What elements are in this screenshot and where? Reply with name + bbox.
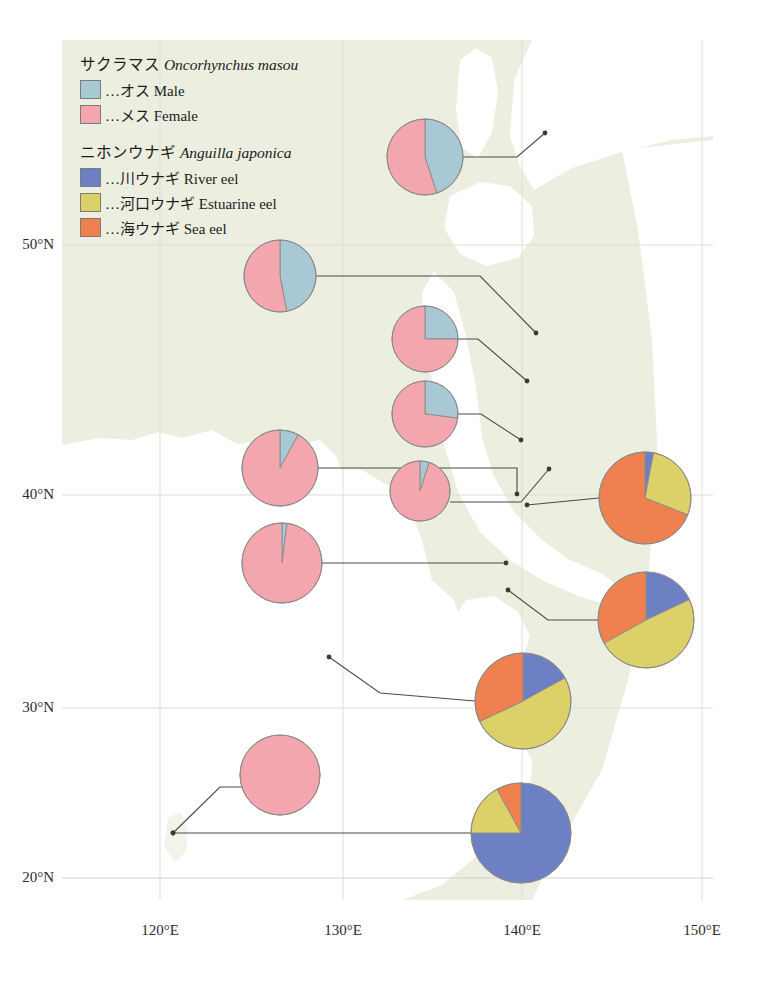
pie-masu-4[interactable] bbox=[392, 381, 458, 447]
pie-masu-3[interactable] bbox=[392, 306, 458, 372]
lon-tick-140: 140°E bbox=[482, 922, 562, 939]
swatch-river-eel-icon bbox=[80, 168, 101, 187]
pie-masu-8[interactable] bbox=[240, 735, 320, 815]
pie-masu-2[interactable] bbox=[244, 240, 316, 312]
lat-tick-40: 40°N bbox=[0, 486, 54, 503]
legend-label-sea-eel: …海ウナギ Sea eel bbox=[105, 217, 227, 238]
legend-item-sea-eel[interactable]: …海ウナギ Sea eel bbox=[80, 217, 380, 238]
legend-title-eel: ニホンウナギ Anguilla japonica bbox=[80, 140, 380, 162]
swatch-estuarine-eel-icon bbox=[80, 193, 101, 212]
lon-tick-150: 150°E bbox=[662, 922, 742, 939]
lon-tick-120: 120°E bbox=[120, 922, 200, 939]
slice-male bbox=[280, 240, 316, 311]
figure-root: サクラマス Oncorhynchus masou …オス Male …メス Fe… bbox=[0, 0, 771, 987]
lat-tick-30: 30°N bbox=[0, 699, 54, 716]
legend-item-male[interactable]: …オス Male bbox=[80, 79, 380, 100]
legend-label-river-eel: …川ウナギ River eel bbox=[105, 167, 238, 188]
pie-eel-1[interactable] bbox=[599, 452, 691, 544]
pie-eel-4[interactable] bbox=[471, 783, 571, 883]
legend-label-estuarine-eel: …河口ウナギ Estuarine eel bbox=[105, 192, 277, 213]
legend-item-estuarine-eel[interactable]: …河口ウナギ Estuarine eel bbox=[80, 192, 380, 213]
pie-eel-3[interactable] bbox=[475, 653, 571, 749]
pie-masu-5[interactable] bbox=[242, 430, 318, 506]
legend-title-masu-jp: サクラマス bbox=[80, 56, 160, 73]
pie-masu-6[interactable] bbox=[390, 461, 450, 521]
legend-title-masu: サクラマス Oncorhynchus masou bbox=[80, 52, 380, 74]
legend: サクラマス Oncorhynchus masou …オス Male …メス Fe… bbox=[80, 52, 380, 242]
legend-label-male: …オス Male bbox=[105, 79, 185, 100]
legend-title-eel-sci: Anguilla japonica bbox=[180, 144, 292, 161]
lon-tick-130: 130°E bbox=[303, 922, 383, 939]
swatch-female-icon bbox=[80, 105, 101, 124]
slice-female bbox=[244, 240, 287, 312]
lat-tick-20: 20°N bbox=[0, 869, 54, 886]
pie-eel-2[interactable] bbox=[598, 572, 694, 668]
lat-tick-50: 50°N bbox=[0, 236, 54, 253]
pie-masu-7[interactable] bbox=[242, 523, 322, 603]
swatch-male-icon bbox=[80, 80, 101, 99]
legend-label-female: …メス Female bbox=[105, 104, 198, 125]
swatch-sea-eel-icon bbox=[80, 218, 101, 237]
legend-item-female[interactable]: …メス Female bbox=[80, 104, 380, 125]
legend-spacer bbox=[80, 129, 380, 140]
legend-title-eel-jp: ニホンウナギ bbox=[80, 144, 176, 161]
pie-masu-1[interactable] bbox=[387, 119, 463, 195]
legend-title-masu-sci: Oncorhynchus masou bbox=[164, 56, 298, 73]
legend-item-river-eel[interactable]: …川ウナギ River eel bbox=[80, 167, 380, 188]
slice-male bbox=[425, 381, 458, 418]
